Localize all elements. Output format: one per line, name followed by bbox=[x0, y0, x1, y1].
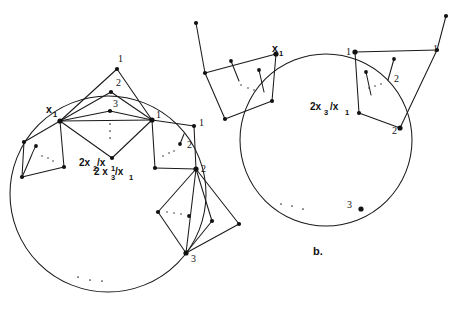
vertex-left-ring-1 bbox=[149, 117, 154, 122]
vertex-rrg-inner-a bbox=[392, 57, 396, 61]
vertex-low-diamond bbox=[110, 156, 114, 160]
left-bottom-ellipsis bbox=[77, 276, 103, 282]
edge-rq-d bbox=[152, 120, 155, 168]
edge-rrg-spur bbox=[437, 16, 446, 50]
right-main-circle bbox=[240, 54, 412, 226]
edge-lrg-b bbox=[158, 212, 186, 253]
left-rq-ellipsis bbox=[162, 150, 175, 157]
panel-a-group: 1 2 3 bbox=[10, 53, 241, 292]
vertex-lrg-inner bbox=[187, 214, 191, 218]
label-left-ring-3: 3 bbox=[191, 253, 196, 264]
vertex-left-ring-3 bbox=[183, 250, 188, 255]
edge-lrg-a bbox=[158, 169, 196, 212]
vertex-quad-c bbox=[62, 165, 66, 169]
frac-lower-slash: /x bbox=[115, 166, 124, 177]
vertex-right-ring-1 bbox=[352, 49, 357, 54]
right-bottom-ellipsis bbox=[280, 203, 304, 210]
edge-rrg-stub-b bbox=[366, 72, 371, 95]
left-lower-diamond bbox=[60, 120, 152, 160]
vertex-rq-inner bbox=[178, 142, 182, 146]
edge-lrg-f bbox=[186, 224, 239, 253]
label-left-ring-2: 2 bbox=[201, 163, 206, 174]
left-lrg-ellipsis bbox=[166, 211, 182, 215]
figure-root: 1 2 3 bbox=[0, 0, 456, 314]
label-rq-1: 1 bbox=[199, 117, 204, 128]
left-main-circle bbox=[10, 96, 206, 292]
vertex-rlg-topleft bbox=[203, 71, 207, 75]
label-left-ring-1: 1 bbox=[156, 109, 161, 120]
right-rg-ellipsis bbox=[368, 83, 382, 89]
edge-x1-apex1 bbox=[60, 69, 117, 121]
frac-upper-lead: 2x bbox=[79, 157, 91, 168]
vertex-lrg-c bbox=[210, 219, 214, 223]
edge-quad-c bbox=[22, 167, 64, 177]
vertex-rq-c bbox=[153, 166, 157, 170]
vertex-left-ring-2 bbox=[193, 166, 198, 171]
vertex-lrg-e bbox=[237, 222, 241, 226]
label-left-x1-base: x bbox=[46, 103, 52, 115]
edge-rrg-left bbox=[355, 52, 359, 113]
arc-quad-inner bbox=[22, 146, 36, 177]
edge-lrg-c bbox=[186, 221, 212, 253]
label-right-ring-1: 1 bbox=[346, 46, 351, 57]
edge-x1-apex3 bbox=[60, 111, 110, 121]
mathematical-diagram: 1 2 3 bbox=[0, 0, 456, 314]
vertex-quad-inner bbox=[34, 144, 38, 148]
edge-lowvertex-node1 bbox=[112, 120, 152, 158]
vertex-rlg-inner-b bbox=[257, 68, 261, 72]
panel-b-group: 1 2 x 1 1 2 3 2x 3 /x 1 b. bbox=[194, 14, 448, 257]
edge-x1-lowvertex bbox=[60, 121, 112, 158]
vertex-rrg-bottomleft bbox=[357, 111, 361, 115]
left-quad-ellipsis bbox=[41, 155, 54, 162]
frac-lower-lead: 2 x bbox=[94, 166, 108, 177]
vertex-rlg-inner-a bbox=[229, 59, 233, 63]
panel-b-caption: b. bbox=[313, 245, 323, 257]
vertex-lrg-a bbox=[156, 210, 160, 214]
label-right-ring-3: 3 bbox=[347, 199, 352, 210]
label-left-x1-sub: 1 bbox=[53, 110, 57, 119]
vertex-quad-a bbox=[22, 140, 26, 144]
edge-rlg-right bbox=[272, 54, 276, 101]
label-right-ring-2: 2 bbox=[392, 125, 397, 136]
left-quad-gadget bbox=[20, 121, 66, 179]
right-right-gadget: 1 2 bbox=[355, 14, 448, 128]
edge-rrg-top bbox=[355, 50, 437, 52]
vertex-quad-b bbox=[20, 175, 24, 179]
vertex-right-ring-2 bbox=[397, 125, 402, 130]
edge-x1-apex2 bbox=[60, 92, 111, 121]
edge-apex1-node1 bbox=[117, 69, 152, 120]
edge-rlg-spur bbox=[196, 23, 205, 73]
edge-rlg-top bbox=[205, 54, 276, 73]
vertex-rlg-spur-tip bbox=[194, 21, 198, 25]
vertex-apex-2 bbox=[109, 90, 113, 94]
edge-rq-c bbox=[155, 168, 196, 169]
edge-rrg-right bbox=[400, 50, 437, 128]
left-hub-x1-fan bbox=[60, 69, 152, 121]
label-rrg-2: 2 bbox=[394, 73, 399, 84]
frac-lower-sub2: 1 bbox=[129, 173, 133, 182]
vertex-rrg-spur-tip bbox=[444, 14, 448, 18]
label-apex-2: 2 bbox=[116, 77, 121, 88]
left-lower-right-gadget bbox=[156, 169, 241, 253]
left-apex-vertical-ellipsis bbox=[109, 123, 111, 139]
edge-quad-d bbox=[60, 121, 64, 167]
right-lg-ellipsis bbox=[240, 84, 255, 91]
label-rrg-1: 1 bbox=[433, 43, 438, 54]
right-frac-sub2: 1 bbox=[345, 108, 349, 117]
vertex-rlg-bottomleft bbox=[223, 117, 227, 121]
right-frac-slash: /x bbox=[330, 101, 339, 112]
right-left-gadget bbox=[194, 21, 276, 121]
label-right-fraction: 2x 3 /x 1 bbox=[310, 101, 349, 117]
vertex-rq-a bbox=[192, 124, 196, 128]
right-frac-sub1: 3 bbox=[324, 108, 328, 117]
label-right-x1-sub: 1 bbox=[279, 49, 283, 58]
edge-quad-a bbox=[24, 121, 60, 142]
vertex-left-x1 bbox=[57, 118, 62, 123]
edge-rlg-left bbox=[205, 73, 225, 119]
label-right-x1-base: x bbox=[272, 42, 278, 54]
label-apex-1: 1 bbox=[118, 53, 123, 64]
vertex-rrg-inner-b bbox=[364, 70, 368, 74]
label-rq-2: 2 bbox=[187, 139, 192, 150]
vertex-rlg-bottomright bbox=[270, 99, 274, 103]
label-apex-3: 3 bbox=[113, 98, 118, 109]
